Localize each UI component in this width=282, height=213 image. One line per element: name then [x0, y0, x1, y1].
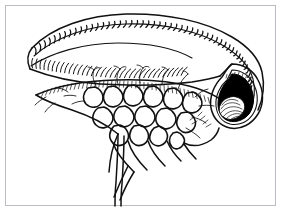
mid-ridge: [31, 43, 192, 66]
lower-right-contour: [184, 128, 219, 145]
illustration-canvas: [0, 0, 282, 213]
figure-root: curved comb-bearing appendage with retic…: [0, 0, 282, 213]
lamella-margin-hatching: [42, 81, 210, 103]
reticulate-lamella: [84, 85, 202, 149]
terminal-aperture: [211, 64, 263, 128]
right-flank-hatching: [190, 108, 211, 127]
converging-veins: [109, 134, 196, 172]
